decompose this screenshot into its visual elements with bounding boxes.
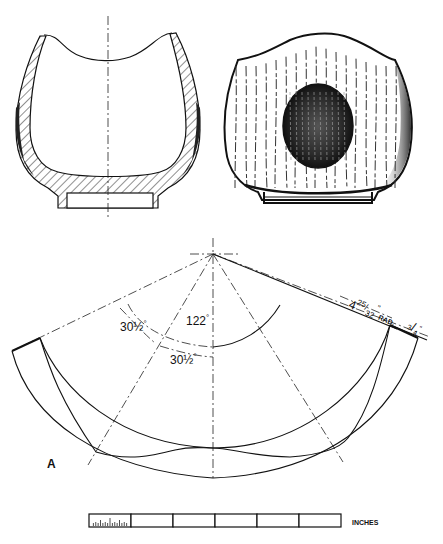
scale-unit-label: INCHES [352,519,379,526]
drawing-canvas: 122° 30½° 30½° 425/32"RAD. 3/4" A INCHES [0,0,443,544]
angle-30a-label: 30½° [120,319,147,334]
template-end-left [12,338,40,351]
scale-division [257,514,299,527]
inner-arc [40,325,390,448]
radial-line-right-edge [213,254,430,337]
svg-text:3/4": 3/4" [405,319,424,338]
exterior-view [225,34,412,203]
scale-division [131,514,173,527]
scale-division [173,514,215,527]
scale-division [299,514,341,527]
radius-label: 425/32"RAD. [347,294,399,329]
section-view [16,16,201,218]
section-foot-recess [67,193,153,208]
angle-arc-122-right [213,305,280,347]
outer-arc [12,338,418,478]
angle-30b-label: 30½° [170,352,197,367]
profile-curve [40,325,390,457]
template-view: 122° 30½° 30½° 425/32"RAD. 3/4" A [12,238,430,478]
svg-text:425/32"RAD.: 425/32"RAD. [347,294,399,329]
exterior-knot [283,84,353,168]
thickness-label: 3/4" [405,319,424,338]
scale-bar: INCHES [89,514,379,527]
angle-122-label: 122° [186,313,209,328]
radial-line-right-30 [213,254,343,462]
template-label-a: A [47,457,56,471]
radial-line-left-edge [12,254,213,351]
scale-division [215,514,257,527]
